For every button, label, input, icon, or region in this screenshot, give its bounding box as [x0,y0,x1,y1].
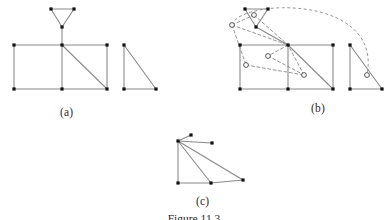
graph-edge [256,9,268,27]
graph-node [243,7,246,10]
graph-node [60,87,63,90]
graph-node [254,25,257,28]
graph-edge [62,45,107,89]
graph-edge [124,45,156,89]
graph-node [348,87,351,90]
graph-node [72,7,75,10]
graph-node [105,43,108,46]
dashed-arc-edge [232,8,368,75]
graph-node [189,133,192,136]
graph-edge [350,45,382,89]
graph-edge [211,180,243,183]
graph-node [348,43,351,46]
graph-node [12,87,15,90]
pattern-node-open [252,13,257,18]
nodes-layer [12,7,383,184]
figure-caption: Figure 11.3 [0,213,388,220]
graph-edge [62,9,74,27]
graph-node [122,87,125,90]
graph-node [122,43,125,46]
dashed-arc-layer [232,8,368,75]
dashed-edge [232,25,288,45]
graph-edge [178,141,212,143]
graph-node [12,43,15,46]
graph-node [176,181,179,184]
graph-node [238,43,241,46]
graph-node [49,7,52,10]
graph-node [209,181,212,184]
graph-node [286,43,289,46]
graph-edge [178,135,191,141]
pattern-node-open [365,73,370,78]
figure-canvas [0,0,388,220]
pattern-node-open [244,63,249,68]
dashed-edge [254,15,288,45]
graph-node [380,87,383,90]
graph-node [238,87,241,90]
graph-node [286,87,289,90]
graph-node [60,25,63,28]
dashed-edge [268,45,288,56]
graph-node [154,87,157,90]
graph-edge [288,45,333,89]
graph-node [176,139,179,142]
graph-node [331,87,334,90]
graph-edge [51,9,62,27]
graph-node [266,7,269,10]
pattern-node-open [266,54,271,59]
graph-node [60,43,63,46]
graph-edge [178,141,211,183]
dashed-edge [288,45,304,75]
panel-label-c: (c) [196,195,209,207]
figure-container: (a) (b) (c) Figure 11.3 [0,0,388,220]
pattern-node-open [230,23,235,28]
graph-node [241,178,244,181]
graph-node [210,141,213,144]
panel-label-b: (b) [311,102,325,114]
graph-node [105,87,108,90]
panel-label-a: (a) [60,106,73,118]
graph-edge [256,27,288,45]
graph-edge [178,141,243,180]
edges-layer [14,9,382,183]
pattern-node-open [302,73,307,78]
graph-node [331,43,334,46]
